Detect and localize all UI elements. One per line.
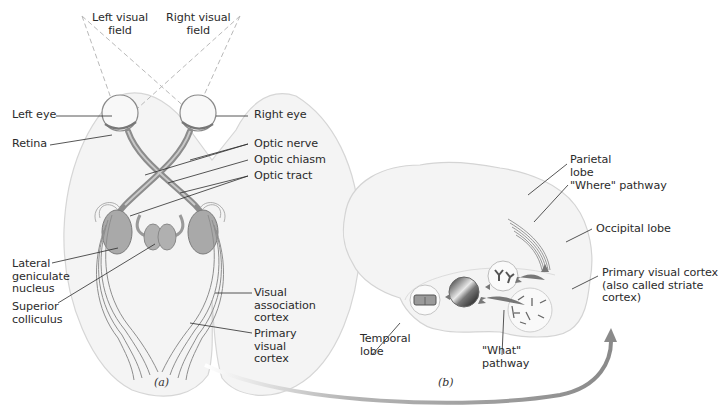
right-lgn: [188, 210, 218, 254]
panel-a-brain-top-view: [50, 16, 360, 396]
superior-colliculus-r: [158, 224, 176, 250]
caption-a: (a): [154, 376, 169, 389]
shaded-sphere: [449, 277, 479, 307]
label-occipital-lobe: Occipital lobe: [596, 223, 671, 236]
label-temporal-lobe: Temporal lobe: [360, 333, 410, 358]
label-where-pathway: "Where" pathway: [570, 180, 667, 193]
striate-cortex-region: [508, 288, 552, 332]
panel-b-brain-side-view: [343, 162, 598, 355]
label-what-pathway: "What" pathway: [482, 345, 529, 370]
label-parietal-lobe: Parietal lobe: [570, 154, 611, 179]
label-primary-visual-cortex-a: Primary visual cortex: [254, 328, 297, 366]
label-left-eye: Left eye: [12, 109, 56, 122]
label-lateral-geniculate-nucleus: Lateral geniculate nucleus: [12, 258, 70, 296]
label-primary-visual-cortex-b: Primary visual cortex (also called stria…: [602, 267, 718, 305]
label-right-eye: Right eye: [254, 109, 307, 122]
label-superior-colliculus: Superior colliculus: [12, 301, 63, 326]
label-right-visual-field: Right visual field: [166, 12, 230, 37]
feature-detector-circle: [488, 261, 518, 291]
left-lgn: [102, 210, 132, 254]
caption-b: (b): [438, 376, 454, 389]
label-visual-association-cortex: Visual association cortex: [254, 287, 316, 325]
label-optic-tract: Optic tract: [254, 170, 312, 183]
brain-outline-b: [343, 162, 592, 337]
label-optic-chiasm: Optic chiasm: [254, 154, 326, 167]
arrow-head-icon: [604, 328, 617, 342]
label-optic-nerve: Optic nerve: [254, 138, 318, 151]
label-left-visual-field: Left visual field: [92, 12, 148, 37]
label-retina: Retina: [12, 138, 47, 151]
